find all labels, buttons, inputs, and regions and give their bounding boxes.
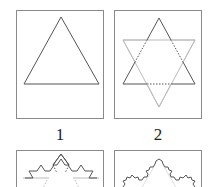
koch-iteration-3-figure — [115, 151, 202, 187]
panel-iteration-1 — [16, 10, 104, 119]
panel-label-2: 2 — [143, 126, 173, 143]
panel-iteration-2 — [114, 10, 202, 119]
panel-iteration-4 — [114, 150, 202, 187]
star-figure — [115, 11, 202, 119]
koch-iteration-2-figure — [17, 151, 104, 187]
triangle-figure — [17, 11, 104, 119]
panel-label-1: 1 — [45, 126, 75, 143]
panel-iteration-3 — [16, 150, 104, 187]
